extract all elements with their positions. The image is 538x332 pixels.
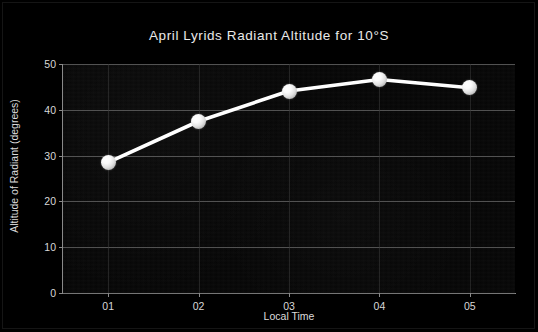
x-tick-mark-02 <box>199 293 200 297</box>
chart-title: April Lyrids Radiant Altitude for 10°S <box>0 28 538 43</box>
x-tick-mark-01 <box>108 293 109 297</box>
y-axis-label: Altitude of Radiant (degrees) <box>8 99 20 233</box>
y-tick-label-10: 10 <box>44 241 56 253</box>
y-tick-label-50: 50 <box>44 58 56 70</box>
data-point-01 <box>101 155 116 170</box>
y-tick-label-20: 20 <box>44 195 56 207</box>
x-tick-mark-05 <box>470 293 471 297</box>
y-tick-mark-0 <box>59 293 63 294</box>
x-tick-mark-03 <box>289 293 290 297</box>
y-tick-label-40: 40 <box>44 104 56 116</box>
data-point-02 <box>191 114 206 129</box>
chart-figure: April Lyrids Radiant Altitude for 10°S 0… <box>0 0 538 332</box>
data-point-04 <box>372 72 387 87</box>
x-tick-mark-04 <box>379 293 380 297</box>
x-axis-label: Local Time <box>63 310 515 322</box>
plot-area: 01020304050 0102030405 <box>63 64 515 293</box>
y-tick-label-30: 30 <box>44 150 56 162</box>
data-point-03 <box>282 84 297 99</box>
y-tick-label-0: 0 <box>50 287 56 299</box>
